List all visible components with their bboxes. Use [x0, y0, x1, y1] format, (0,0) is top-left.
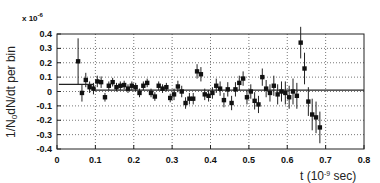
y-axis-label: 1/N0dN/dt per bin: [4, 46, 19, 138]
y-tick-label: -0.1: [36, 101, 52, 111]
data-point: [298, 27, 302, 59]
x-axis-label: t (10-9 sec): [300, 169, 356, 183]
data-point: [141, 81, 145, 90]
data-point: [310, 99, 314, 131]
data-points: [76, 27, 322, 143]
y-tick-label: 0.1: [39, 72, 52, 82]
y-multiplier: x 10-6: [22, 12, 44, 23]
data-point: [241, 71, 245, 85]
data-point: [268, 84, 272, 101]
data-point: [295, 83, 299, 109]
data-point: [245, 90, 249, 104]
chart: 0.40.30.20.10-0.1-0.2-0.3-0.4 00.10.20.3…: [0, 0, 380, 183]
x-tick-label: 0.4: [204, 155, 217, 165]
data-point: [275, 84, 279, 104]
y-tick-label: -0.2: [36, 115, 52, 125]
data-point: [233, 82, 237, 96]
y-tick-label: 0.3: [39, 43, 52, 53]
data-point: [218, 81, 222, 95]
data-point: [252, 92, 256, 109]
x-tick-label: 0.2: [127, 155, 140, 165]
data-point: [256, 96, 260, 113]
data-point: [99, 76, 103, 88]
data-point: [199, 67, 203, 81]
data-point: [279, 81, 283, 101]
data-point: [118, 81, 122, 90]
data-point: [160, 84, 164, 93]
data-point: [110, 78, 114, 87]
data-point: [122, 81, 126, 90]
data-point: [107, 81, 111, 90]
data-point: [87, 81, 91, 93]
x-tick-label: 0: [54, 155, 59, 165]
data-point: [272, 76, 276, 96]
data-point: [314, 102, 318, 134]
data-point: [222, 93, 226, 107]
data-point: [76, 38, 80, 84]
data-point: [237, 76, 241, 90]
data-point: [195, 64, 199, 78]
data-point: [187, 93, 191, 105]
data-point: [153, 92, 157, 101]
x-tick-label: 0.1: [89, 155, 102, 165]
data-point: [180, 86, 184, 98]
x-tick-label: 0.6: [281, 155, 294, 165]
data-point: [291, 79, 295, 105]
data-point: [287, 86, 291, 109]
data-point: [214, 79, 218, 93]
x-tick-label: 0.7: [319, 155, 332, 165]
x-tick-label: 0.3: [166, 155, 179, 165]
data-point: [80, 84, 84, 101]
data-point: [103, 93, 107, 102]
data-point: [302, 53, 306, 85]
data-point: [156, 81, 160, 90]
data-point: [318, 112, 322, 144]
y-tick-label: 0.4: [39, 29, 52, 39]
data-point: [84, 73, 88, 87]
data-point: [264, 80, 268, 97]
x-tick-label: 0.5: [243, 155, 256, 165]
y-tick-label: 0: [47, 87, 52, 97]
data-point: [226, 82, 230, 96]
x-tick-label: 0.8: [358, 155, 371, 165]
data-point: [249, 84, 253, 98]
data-point: [260, 69, 264, 86]
fit-line: [59, 84, 364, 90]
data-point: [229, 96, 233, 110]
data-point: [191, 93, 195, 105]
y-tick-label: 0.2: [39, 58, 52, 68]
data-point: [183, 97, 187, 109]
y-tick-label: -0.4: [36, 144, 52, 154]
x-tick-labels: 00.10.20.30.40.50.60.70.8: [54, 155, 370, 165]
y-tick-label: -0.3: [36, 130, 52, 140]
data-point: [145, 79, 149, 88]
y-tick-labels: 0.40.30.20.10-0.1-0.2-0.3-0.4: [36, 29, 52, 154]
